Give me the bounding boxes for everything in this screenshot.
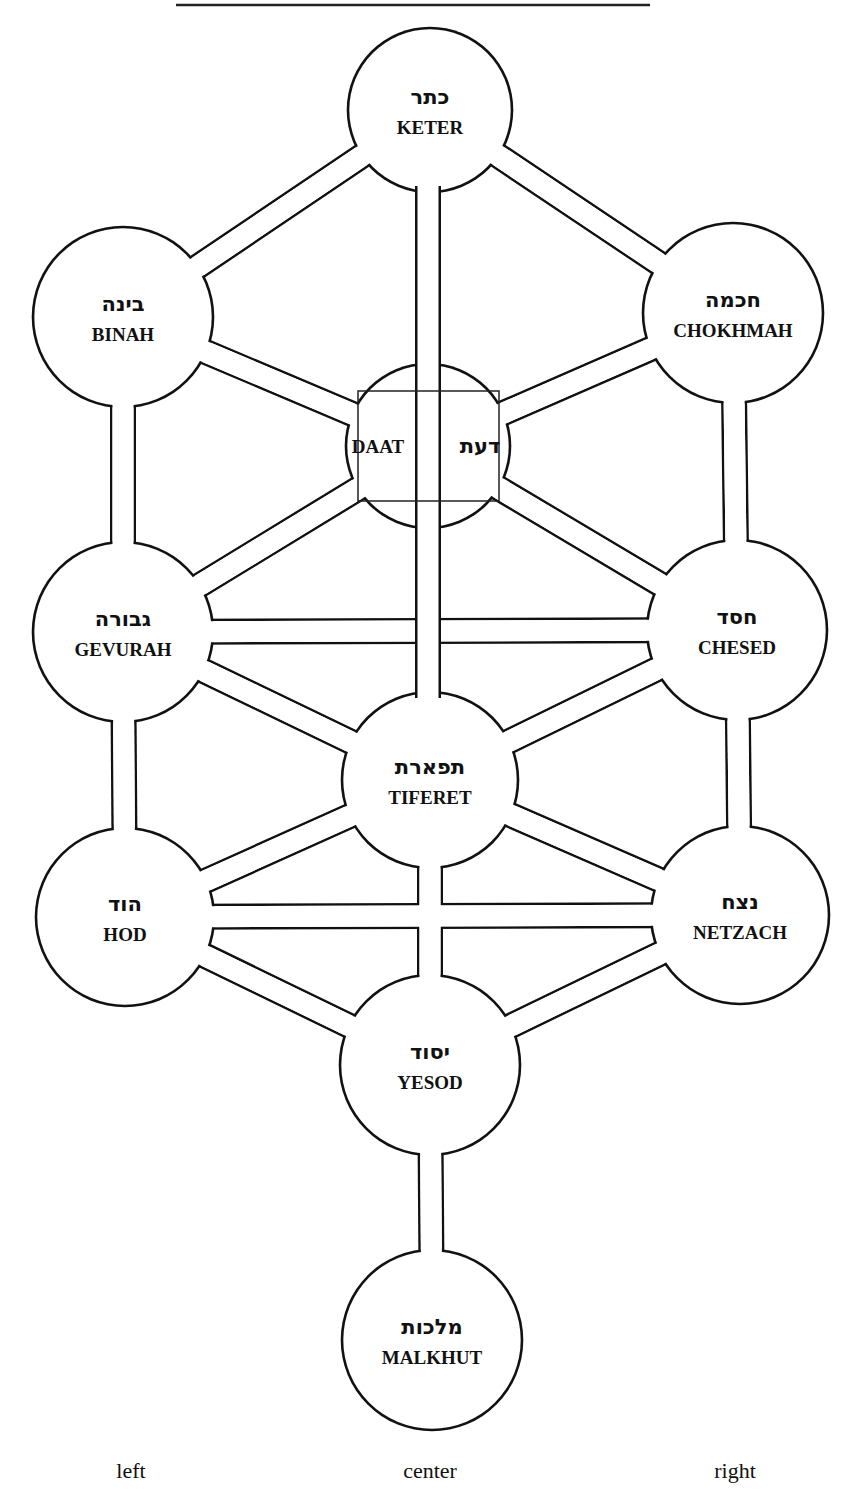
sefirah-tiferet: [343, 693, 516, 866]
sefirah-hebrew: הוד: [108, 892, 142, 916]
sefirah-hebrew: חכמה: [705, 288, 761, 312]
sefirah-name: NETZACH: [693, 922, 787, 943]
sefirah-name: BINAH: [92, 324, 155, 345]
sefirah-hebrew: נצח: [721, 890, 759, 914]
sefirah-name: TIFERET: [388, 787, 472, 808]
sefirah-chesed: [648, 541, 825, 718]
sefirah-name: GEVURAH: [74, 639, 171, 660]
sefirah-hebrew: דעת: [460, 434, 501, 458]
sefirah-hebrew: מלכות: [401, 1315, 462, 1339]
sefirah-name: CHESED: [698, 637, 776, 658]
sefirah-hebrew: בינה: [102, 292, 145, 316]
sefirah-keter: [349, 29, 510, 190]
sefirah-name: YESOD: [397, 1072, 462, 1093]
sefirah-name: KETER: [397, 117, 464, 138]
sefirah-gevurah: [34, 543, 211, 720]
sefirah-name: HOD: [103, 924, 146, 945]
sefirah-hebrew: יסוד: [410, 1040, 450, 1064]
tree-of-life-diagram: כתרKETERבינהBINAHחכמהCHOKHMAHDAATדעתגבור…: [0, 0, 859, 1499]
pillar-label-right: right: [714, 1458, 756, 1483]
sefirah-hebrew: כתר: [411, 85, 450, 109]
sefirah-name: MALKHUT: [382, 1347, 483, 1368]
pillar-label-left: left: [116, 1458, 145, 1483]
sefirah-name: DAAT: [352, 436, 405, 457]
sefirah-name: CHOKHMAH: [673, 320, 792, 341]
sefirah-hod: [37, 829, 212, 1004]
sefirah-binah: [34, 228, 211, 405]
pillar-labels: leftcenterright: [116, 1458, 755, 1483]
sefirah-malkhut: [343, 1251, 520, 1428]
sefirah-hebrew: תפארת: [395, 755, 465, 779]
sefirah-yesod: [341, 976, 518, 1153]
sefirah-netzach: [652, 827, 827, 1002]
sefirah-chokhmah: [644, 224, 821, 401]
sefirah-hebrew: חסד: [716, 605, 757, 629]
sefirah-hebrew: גבורה: [95, 607, 151, 631]
pillar-label-center: center: [403, 1458, 457, 1483]
